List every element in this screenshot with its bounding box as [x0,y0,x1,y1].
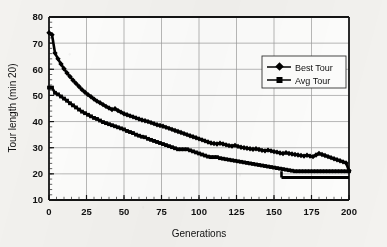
x-tick-label-125: 125 [229,206,246,217]
chart-figure: 0255075100125150175200 1020304050607080 … [0,0,387,247]
line-chart: 0255075100125150175200 1020304050607080 … [0,0,387,247]
y-tick-label-10: 10 [32,194,43,205]
x-tick-label-200: 200 [341,206,357,217]
legend-label-best-tour: Best Tour [295,63,333,73]
x-axis-tick-labels: 0255075100125150175200 [46,206,357,217]
y-axis-title: Tour length (min 20) [7,64,18,153]
x-axis-title: Generations [172,228,226,239]
x-tick-label-100: 100 [191,206,207,217]
x-tick-label-75: 75 [156,206,167,217]
y-tick-label-60: 60 [32,64,43,75]
chart-legend: Best Tour Avg Tour [262,56,346,88]
x-tick-label-175: 175 [304,206,321,217]
y-tick-label-30: 30 [32,142,43,153]
data-point [50,86,54,90]
x-tick-label-25: 25 [81,206,92,217]
y-tick-label-40: 40 [32,116,43,127]
y-tick-label-50: 50 [32,90,43,101]
x-tick-label-0: 0 [46,206,51,217]
y-tick-label-80: 80 [32,11,43,22]
y-tick-label-70: 70 [32,38,43,49]
y-tick-label-20: 20 [32,168,43,179]
legend-label-avg-tour: Avg Tour [295,76,330,86]
data-point [347,169,351,173]
y-axis-tick-labels: 1020304050607080 [32,11,43,205]
x-tick-label-50: 50 [119,206,130,217]
legend-marker-avg-tour [277,77,283,83]
x-tick-label-150: 150 [266,206,282,217]
